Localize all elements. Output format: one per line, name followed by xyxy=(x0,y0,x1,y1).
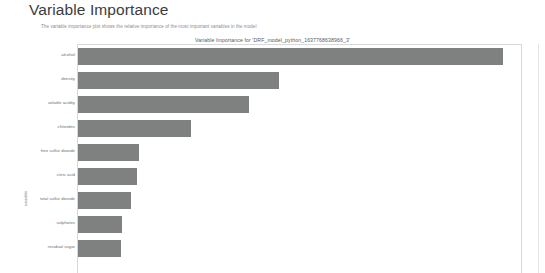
bar xyxy=(78,96,249,113)
bar xyxy=(78,48,503,65)
y-axis-title: variable xyxy=(23,191,28,206)
bar xyxy=(78,144,139,161)
plot-area: alcoholdensityvolatile aciditychloridesf… xyxy=(78,45,522,273)
chart-title: Variable Importance for 'DRF_model_pytho… xyxy=(0,37,545,43)
category-label: density xyxy=(61,76,75,81)
bar-row: alcohol xyxy=(78,45,503,69)
variable-importance-chart: Variable Importance for 'DRF_model_pytho… xyxy=(0,34,545,273)
bar xyxy=(78,240,121,257)
bar-row: chlorides xyxy=(78,117,503,141)
category-label: chlorides xyxy=(58,124,75,129)
bar xyxy=(78,216,122,233)
bar-row: total sulfur dioxide xyxy=(78,189,503,213)
category-label: residual sugar xyxy=(48,244,75,249)
category-label: citric acid xyxy=(57,172,75,177)
bar-row: free sulfur dioxide xyxy=(78,141,503,165)
category-label: alcohol xyxy=(61,52,75,57)
category-label: volatile acidity xyxy=(48,100,75,105)
bar-row: volatile acidity xyxy=(78,93,503,117)
bar-row: citric acid xyxy=(78,165,503,189)
category-label: sulphates xyxy=(56,220,75,225)
panel-divider xyxy=(538,44,539,273)
bar xyxy=(78,72,279,89)
category-label: free sulfur dioxide xyxy=(41,148,75,153)
bar xyxy=(78,168,137,185)
page-title: Variable Importance xyxy=(29,1,168,19)
bar-row: residual sugar xyxy=(78,237,503,261)
category-label: total sulfur dioxide xyxy=(40,196,75,201)
bar-row: density xyxy=(78,69,503,93)
bar xyxy=(78,120,191,137)
page-description: The variable importance plot shows the r… xyxy=(41,24,257,29)
bar xyxy=(78,192,131,209)
bar-row: sulphates xyxy=(78,213,503,237)
